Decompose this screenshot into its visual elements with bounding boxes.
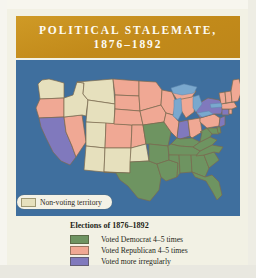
state-nebraska [114,109,143,125]
legend-item-label: Voted Republican 4–5 times [101,246,188,255]
page-edge-left [0,0,7,278]
page-edge-right [248,0,256,278]
state-arizona-territory [84,146,105,172]
state-colorado [105,123,132,148]
nonvoting-territory-key: Non-voting territory [17,195,112,209]
us-map [16,60,240,216]
legend-item-democrat: Voted Democrat 4–5 times [70,234,230,244]
state-new-mexico-territory [104,148,131,173]
state-connecticut [222,109,229,115]
legend-item-irregular: Voted more irregularly [70,256,230,266]
figure-title-line-2: 1876–1892 [94,37,163,52]
map-figure: POLITICAL STALEMATE, 1876–1892 [0,0,256,278]
nonvoting-territory-label: Non-voting territory [40,198,102,207]
legend-item-label: Voted Democrat 4–5 times [101,235,183,244]
state-maine [231,79,240,102]
page-edge-top [0,0,256,9]
state-wyoming-territory [86,100,115,124]
state-south-dakota [115,95,140,111]
color-swatch-icon [70,235,89,244]
color-swatch-icon [70,257,89,266]
lake-ontario [210,103,222,108]
legend-item-label: Voted more irregularly [101,257,171,266]
state-alabama [179,155,192,173]
legend-item-republican: Voted Republican 4–5 times [70,245,230,255]
state-washington-territory [38,79,64,99]
us-map-svg [16,60,240,216]
state-oregon [36,98,64,118]
state-utah-territory [86,122,106,148]
figure-title-line-1: POLITICAL STALEMATE, [39,23,217,37]
map-legend: Elections of 1876–1892 Voted Democrat 4–… [70,221,230,267]
color-swatch-icon [70,246,89,255]
state-north-dakota [113,79,139,96]
state-rhode-island [229,109,232,114]
figure-title-banner: POLITICAL STALEMATE, 1876–1892 [16,16,240,58]
color-swatch-icon [21,198,36,207]
legend-title: Elections of 1876–1892 [70,221,230,231]
state-delaware [217,127,221,133]
